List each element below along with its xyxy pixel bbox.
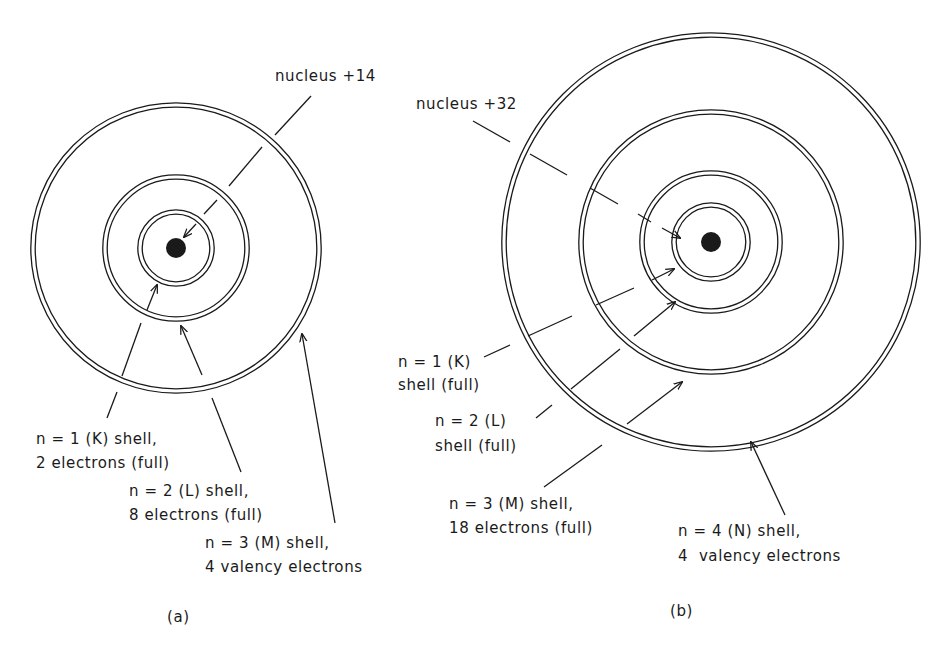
shell-m-label-b-line2: 18 electrons (full): [449, 519, 593, 538]
leader-shell-k-a-segment: [122, 323, 141, 376]
leader-shell-k-b-segment: [596, 288, 634, 305]
leader-shell-k-a-segment: [147, 285, 157, 310]
shell-m-label-a-line2: 4 valency electrons: [205, 558, 363, 577]
shell-l-label-a-line2: 8 electrons (full): [129, 506, 263, 525]
leader-nucleus-a-segment: [275, 96, 311, 135]
caption-b: (b): [670, 602, 693, 621]
leader-nucleus-b-segment: [473, 121, 510, 142]
leader-shell-m-a-segment: [302, 334, 335, 523]
nucleus-b: [701, 232, 721, 252]
shell-n-label-b-line2: 4 valency electrons: [678, 547, 841, 566]
shell-k-label-b-line1: n = 1 (K): [398, 353, 471, 372]
shell-k-label-a-line2: 2 electrons (full): [36, 454, 170, 473]
leader-shell-l-b-segment: [571, 349, 620, 389]
leader-nucleus-a-segment: [229, 147, 262, 186]
caption-a: (a): [167, 608, 190, 627]
leader-nucleus-b-segment: [530, 154, 567, 175]
shell-k-label-a-line1: n = 1 (K) shell,: [36, 430, 158, 449]
leader-shell-l-a-segment: [212, 398, 241, 472]
shell-l-label-a-line1: n = 2 (L) shell,: [129, 482, 249, 501]
leader-shell-n-b-segment: [751, 442, 785, 515]
leader-shell-m-b-segment: [544, 445, 602, 487]
leader-shell-l-b-segment: [634, 302, 675, 336]
nucleus-label-a: nucleus +14: [275, 67, 376, 86]
leader-shell-m-b-segment: [627, 382, 682, 424]
atomic-shell-diagrams: nucleus +14 n = 1 (K) shell, 2 electrons…: [0, 0, 947, 659]
leader-shell-k-b-segment: [528, 316, 572, 336]
shell-l-label-b-line2: shell (full): [435, 437, 517, 456]
shell-n-label-b-line1: n = 4 (N) shell,: [678, 522, 801, 541]
nucleus-label-b: nucleus +32: [416, 95, 517, 114]
shell-l-label-b-line1: n = 2 (L): [435, 412, 506, 431]
shell-m-label-b-line1: n = 3 (M) shell,: [449, 495, 574, 514]
leader-shell-k-a-segment: [107, 392, 117, 418]
leader-nucleus-b-segment: [590, 188, 618, 204]
leader-shell-l-b-segment: [536, 405, 552, 418]
nucleus-a: [166, 238, 186, 258]
leader-shell-l-a-segment: [181, 326, 202, 375]
leader-nucleus-a-segment: [184, 224, 196, 237]
leader-nucleus-a-segment: [204, 200, 217, 214]
shell-k-label-b-line2: shell (full): [398, 376, 480, 395]
leader-shell-k-b-segment: [652, 269, 674, 280]
shell-m-label-a-line1: n = 3 (M) shell,: [205, 534, 330, 553]
leader-shell-k-b-segment: [484, 345, 510, 357]
